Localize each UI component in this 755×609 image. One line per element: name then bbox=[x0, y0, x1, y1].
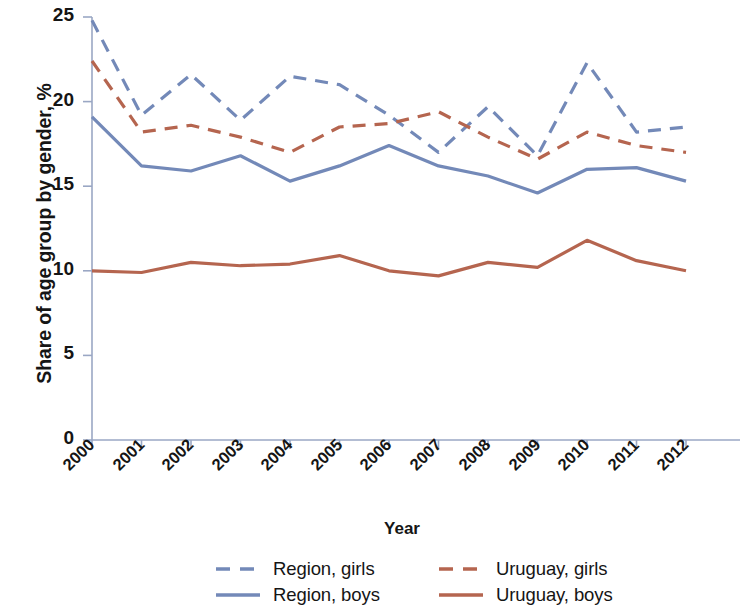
y-axis-tick-label: 0 bbox=[30, 427, 74, 449]
legend-item[interactable]: Uruguay, boys bbox=[438, 582, 613, 608]
legend-label: Uruguay, boys bbox=[496, 584, 613, 606]
legend-item[interactable]: Region, girls bbox=[215, 556, 380, 582]
legend-label: Region, boys bbox=[273, 584, 380, 606]
y-axis-tick-label: 15 bbox=[30, 173, 74, 195]
legend-marker bbox=[438, 586, 484, 604]
dashed-line-icon bbox=[215, 560, 261, 578]
y-axis-tick-label: 25 bbox=[30, 4, 74, 26]
y-axis-tick-label: 20 bbox=[30, 89, 74, 111]
y-axis-tick-label: 10 bbox=[30, 258, 74, 280]
series-line-region-boys bbox=[92, 117, 686, 193]
y-axis-tick-label: 5 bbox=[30, 342, 74, 364]
solid-line-icon bbox=[215, 586, 261, 604]
legend-label: Region, girls bbox=[273, 558, 375, 580]
legend-marker bbox=[438, 560, 484, 578]
series-line-uruguay-boys bbox=[92, 240, 686, 276]
dashed-line-icon bbox=[438, 560, 484, 578]
x-axis-title: Year bbox=[92, 519, 712, 539]
legend-marker bbox=[215, 560, 261, 578]
line-chart: Share of age group by gender, % 25201510… bbox=[0, 0, 755, 609]
y-axis-title: Share of age group by gender, % bbox=[33, 24, 56, 444]
chart-plot-area bbox=[0, 0, 755, 609]
legend-column-right: Uruguay, girlsUruguay, boys bbox=[438, 556, 613, 608]
legend-item[interactable]: Region, boys bbox=[215, 582, 380, 608]
legend-label: Uruguay, girls bbox=[496, 558, 607, 580]
solid-line-icon bbox=[438, 586, 484, 604]
chart-legend: Region, girlsRegion, boys Uruguay, girls… bbox=[0, 556, 755, 609]
legend-column-left: Region, girlsRegion, boys bbox=[215, 556, 380, 608]
legend-marker bbox=[215, 586, 261, 604]
legend-item[interactable]: Uruguay, girls bbox=[438, 556, 613, 582]
